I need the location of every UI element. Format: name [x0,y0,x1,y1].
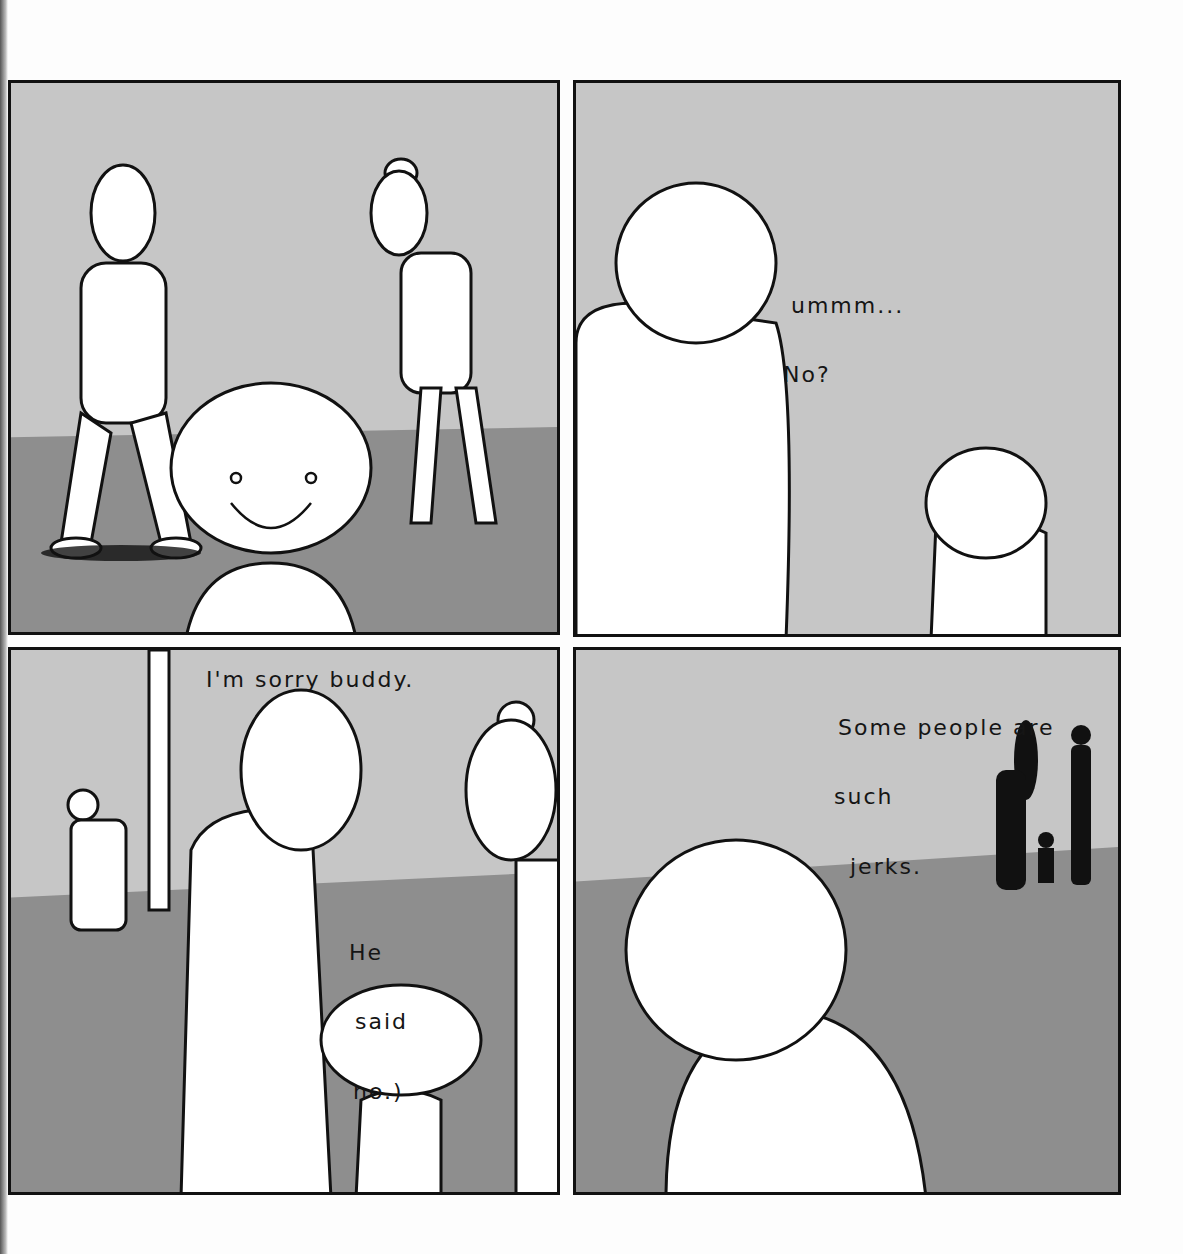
dialogue-ummm-no: ummm... No? [791,248,904,433]
comic-panel-1 [8,80,560,635]
dialogue-some-people-are-such-jerks: Some people are such jerks. [838,670,1055,924]
panel-3-drawing [11,650,560,1195]
comic-panel-2: ummm... No? [573,80,1121,637]
dialogue-im-sorry-buddy: I'm sorry buddy. [206,668,414,691]
panel-1-drawing [11,83,560,635]
comic-panel-4: Some people are such jerks. [573,647,1121,1195]
book-spine-shadow [0,0,8,1254]
comic-panel-3: I'm sorry buddy. He said no.) [8,647,560,1195]
dialogue-he-said-no: He said no.) [349,895,408,1149]
